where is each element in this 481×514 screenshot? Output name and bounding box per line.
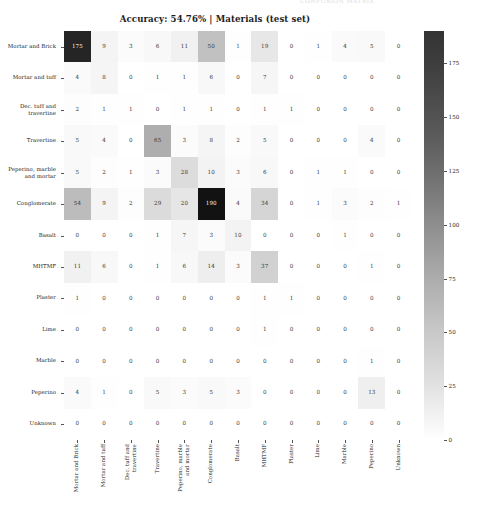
- matrix-cell-value: 0: [290, 44, 294, 50]
- matrix-cell: 0: [251, 409, 278, 440]
- matrix-cell-value: 54: [74, 201, 81, 207]
- matrix-cell-value: 8: [209, 138, 213, 144]
- matrix-cell: 1: [385, 188, 412, 219]
- y-axis-tick-label: Mortar and tuff: [13, 75, 56, 82]
- matrix-cell: 7: [171, 220, 198, 251]
- matrix-cell-value: 1: [76, 296, 80, 302]
- matrix-cell: 0: [144, 283, 171, 314]
- matrix-cell: 1: [91, 377, 118, 408]
- matrix-cell: 1: [278, 283, 305, 314]
- x-axis-tick-label: Marble: [342, 444, 349, 464]
- matrix-cell: 1: [118, 157, 145, 188]
- x-axis-tick-mark: [345, 440, 346, 443]
- matrix-cell: 0: [385, 94, 412, 125]
- matrix-cell-value: 3: [156, 170, 160, 176]
- matrix-cell-value: 1: [156, 76, 160, 82]
- matrix-cell-value: 0: [102, 296, 106, 302]
- matrix-cell-value: 14: [208, 264, 215, 270]
- matrix-cell-value: 0: [397, 264, 401, 270]
- matrix-cell-value: 0: [397, 390, 401, 396]
- x-axis-tick-mark: [372, 440, 373, 443]
- matrix-cell: 0: [171, 314, 198, 345]
- matrix-cell-value: 0: [397, 233, 401, 239]
- matrix-cell: 0: [385, 346, 412, 377]
- matrix-cell-value: 29: [154, 201, 161, 207]
- matrix-cell: 0: [278, 157, 305, 188]
- matrix-cell-value: 4: [102, 138, 106, 144]
- matrix-cell: 5: [64, 125, 91, 156]
- y-axis-tick-label: Mortar and Brick: [8, 43, 56, 50]
- matrix-cell-value: 19: [261, 44, 268, 50]
- matrix-cell: 4: [64, 377, 91, 408]
- matrix-cell-value: 0: [209, 359, 213, 365]
- matrix-cell: 9: [91, 188, 118, 219]
- matrix-cell: 2: [358, 188, 385, 219]
- matrix-cell-value: 0: [316, 233, 320, 239]
- matrix-cell-value: 1: [316, 170, 320, 176]
- matrix-cell-value: 0: [263, 359, 267, 365]
- matrix-cell-value: 0: [102, 422, 106, 428]
- matrix-cell: 28: [171, 157, 198, 188]
- matrix-cell-value: 0: [129, 390, 133, 396]
- matrix-cell: 0: [278, 188, 305, 219]
- matrix-cell: 4: [332, 31, 359, 62]
- matrix-cell: 8: [91, 62, 118, 93]
- matrix-cell: 0: [91, 409, 118, 440]
- matrix-cell: 0: [91, 220, 118, 251]
- matrix-cell-value: 0: [290, 390, 294, 396]
- matrix-cell-value: 0: [236, 327, 240, 333]
- heatmap-cells: 1759361150119014504801160700000211011011…: [64, 31, 412, 440]
- matrix-cell-value: 0: [343, 296, 347, 302]
- matrix-cell-value: 0: [290, 201, 294, 207]
- matrix-cell: 3: [198, 220, 225, 251]
- matrix-cell: 0: [198, 346, 225, 377]
- colorbar-tick-label: 25: [449, 383, 456, 389]
- x-axis-tick-mark: [158, 440, 159, 443]
- matrix-cell: 1: [305, 157, 332, 188]
- matrix-cell-value: 0: [129, 233, 133, 239]
- matrix-cell: 3: [225, 157, 252, 188]
- matrix-cell-value: 0: [397, 359, 401, 365]
- matrix-cell-value: 0: [316, 327, 320, 333]
- matrix-cell-value: 0: [343, 390, 347, 396]
- matrix-cell-value: 1: [102, 107, 106, 113]
- matrix-cell: 0: [385, 314, 412, 345]
- matrix-cell-value: 0: [316, 359, 320, 365]
- colorbar-tick-mark: [444, 225, 447, 226]
- matrix-cell: 7: [251, 62, 278, 93]
- matrix-cell-value: 0: [290, 233, 294, 239]
- matrix-cell: 5: [358, 31, 385, 62]
- matrix-cell-value: 0: [76, 422, 80, 428]
- matrix-cell: 0: [332, 283, 359, 314]
- matrix-cell: 3: [118, 31, 145, 62]
- matrix-cell-value: 1: [263, 327, 267, 333]
- matrix-cell-value: 0: [290, 327, 294, 333]
- matrix-cell: 0: [278, 251, 305, 282]
- colorbar-tick-mark: [444, 279, 447, 280]
- matrix-cell: 10: [198, 157, 225, 188]
- matrix-cell-value: 0: [156, 107, 160, 113]
- matrix-cell-value: 1: [183, 76, 187, 82]
- matrix-cell: 0: [144, 409, 171, 440]
- matrix-cell: 6: [144, 31, 171, 62]
- matrix-cell-value: 0: [343, 422, 347, 428]
- matrix-cell-value: 1: [343, 170, 347, 176]
- colorbar-tick-mark: [444, 171, 447, 172]
- matrix-cell-value: 11: [181, 44, 188, 50]
- x-axis-tick-label: Dec. tuff and travertine: [124, 444, 138, 480]
- matrix-cell-value: 1: [209, 107, 213, 113]
- matrix-cell-value: 7: [263, 76, 267, 82]
- matrix-cell: 5: [64, 157, 91, 188]
- x-axis-tick-mark: [238, 440, 239, 443]
- matrix-cell-value: 0: [397, 422, 401, 428]
- matrix-cell: 0: [358, 283, 385, 314]
- matrix-cell-value: 5: [263, 138, 267, 144]
- matrix-cell-value: 0: [397, 296, 401, 302]
- matrix-cell: 11: [171, 31, 198, 62]
- colorbar-ticks: 0255075100125150175: [444, 31, 481, 440]
- matrix-cell: 0: [385, 409, 412, 440]
- matrix-cell-value: 0: [316, 296, 320, 302]
- matrix-cell-value: 0: [397, 170, 401, 176]
- matrix-cell-value: 0: [183, 296, 187, 302]
- matrix-cell: 0: [118, 377, 145, 408]
